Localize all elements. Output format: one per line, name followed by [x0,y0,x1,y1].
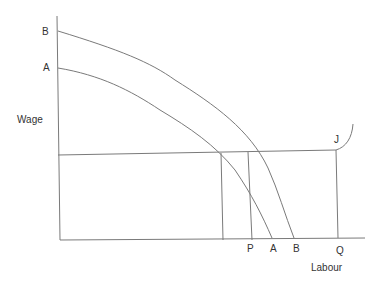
curve-b-label: B [42,27,49,37]
point-j-label: J [334,135,339,145]
demand-curve-b [58,31,294,238]
x-axis-label: Labour [311,263,342,273]
x-marker-p: P [247,244,254,254]
y-axis-label: Wage [17,115,43,125]
wage-line [58,150,336,155]
x-marker-b: B [293,244,300,254]
drop-line-curve-a [221,153,223,240]
x-marker-q: Q [336,246,344,256]
drop-line-q [336,150,338,238]
y-axis [57,16,60,240]
curve-a-label: A [43,63,50,73]
x-marker-a: A [270,244,277,254]
labour-market-diagram [0,0,383,282]
x-axis [60,238,365,240]
